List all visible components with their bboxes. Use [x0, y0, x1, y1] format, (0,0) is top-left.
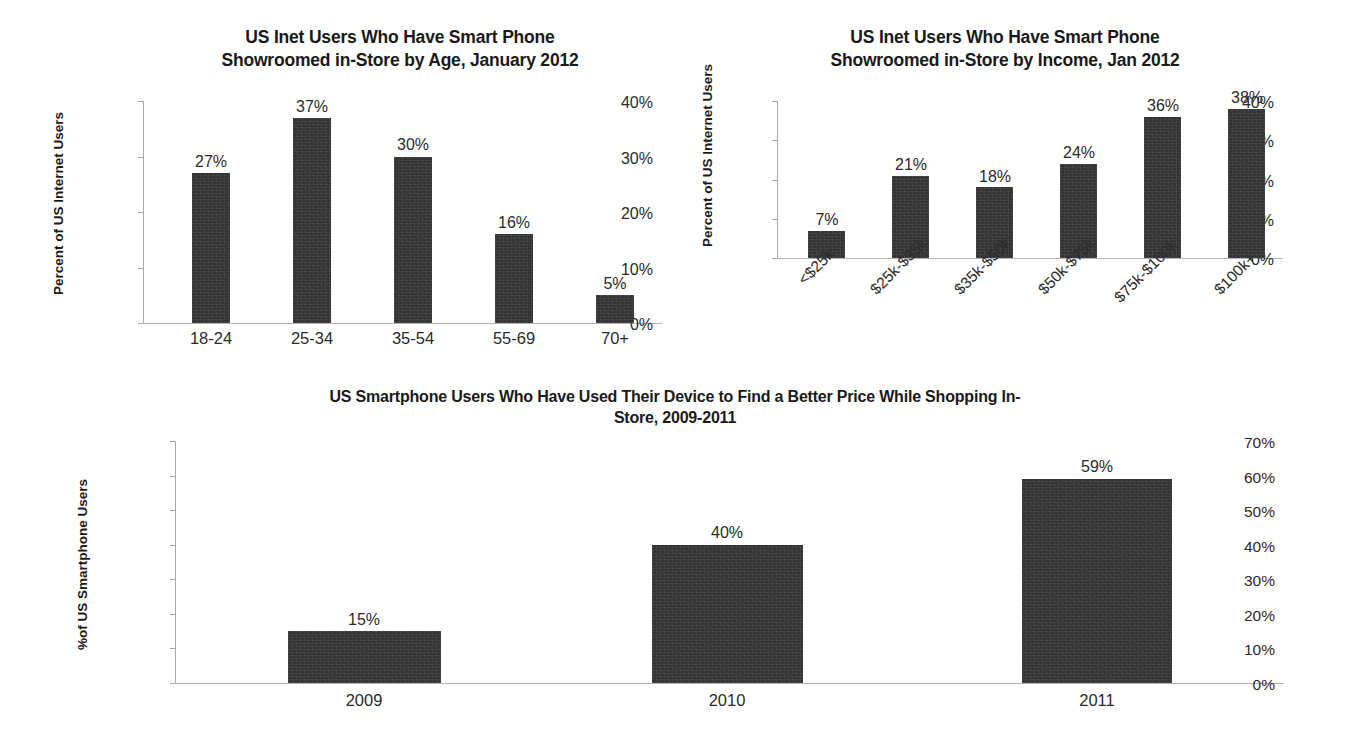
chart-years-ytick-label-50: 50% — [1244, 503, 1275, 521]
chart-years-bar-2009 — [288, 631, 441, 683]
chart-years-ytick-label-20: 20% — [1244, 607, 1275, 625]
chart-income-title-line-2: Showroomed in-Store by Income, Jan 2012 — [755, 49, 1255, 72]
chart-age-bar-55-69 — [495, 234, 533, 323]
chart-age-xtick-70plus: 70+ — [575, 329, 655, 348]
chart-age-ytick-0 — [138, 323, 143, 324]
chart-income-bar-75k-100k — [1144, 117, 1181, 258]
chart-age-xtick-25-34: 25-34 — [272, 329, 352, 348]
chart-income-ytick-0 — [772, 258, 777, 259]
chart-age-value-70plus: 5% — [585, 275, 645, 293]
chart-income-y-axis-title: Percent of US Internet Users — [700, 56, 715, 256]
chart-income-ytick-20 — [772, 180, 777, 181]
chart-age-y-axis-title: Percent of US Internet Users — [51, 104, 66, 304]
chart-age-bar-25-34 — [293, 118, 331, 323]
chart-years-y-axis-title: %of US Smartphone Users — [75, 455, 90, 675]
chart-years-ytick-40 — [170, 545, 175, 546]
chart-years-x-axis-line — [175, 683, 1284, 684]
chart-age-bar-70plus — [596, 295, 634, 323]
chart-age-title-line-1: US Inet Users Who Have Smart Phone — [150, 26, 650, 49]
chart-age-value-55-69: 16% — [484, 214, 544, 232]
chart-income-plot-area: 0% 10% 20% 30% 40% 7% 21% 18% 24% 36% 38… — [777, 101, 1283, 259]
chart-age-plot-area: 0% 10% 20% 30% 40% 27% 37% 30% 16% 5% 18… — [143, 101, 662, 324]
chart-years-ytick-label-60: 60% — [1244, 469, 1275, 487]
chart-years-ytick-label-30: 30% — [1244, 572, 1275, 590]
chart-years-xtick-2011: 2011 — [1062, 691, 1132, 710]
chart-years-ytick-label-70: 70% — [1244, 434, 1275, 452]
chart-years-ytick-20 — [170, 614, 175, 615]
chart-years-bar-2010 — [652, 545, 803, 683]
chart-years-ytick-60 — [170, 476, 175, 477]
chart-income-value-75k-100k: 36% — [1133, 97, 1193, 115]
chart-income-value-35k-50k: 18% — [965, 168, 1025, 186]
chart-years-bar-2011 — [1022, 479, 1172, 683]
chart-income-bar-100k-plus — [1228, 109, 1265, 258]
chart-age-y-axis-line — [143, 101, 144, 324]
chart-age-ytick-40 — [138, 101, 143, 102]
chart-income-value-under-25k: 7% — [797, 211, 857, 229]
chart-years-title-line-2: Store, 2009-2011 — [215, 408, 1135, 429]
chart-years-value-2009: 15% — [334, 611, 394, 629]
chart-income-ytick-10 — [772, 219, 777, 220]
chart-income-y-axis-line — [777, 101, 778, 259]
chart-age-xtick-18-24: 18-24 — [171, 329, 251, 348]
chart-age-ytick-label-30: 30% — [621, 150, 653, 168]
chart-income-value-100k-plus: 38% — [1217, 89, 1277, 107]
chart-age-bar-18-24 — [192, 173, 230, 323]
chart-years-ytick-label-10: 10% — [1244, 641, 1275, 659]
chart-age-bar-chart: US Inet Users Who Have Smart Phone Showr… — [0, 0, 690, 360]
chart-income-title: US Inet Users Who Have Smart Phone Showr… — [755, 26, 1255, 72]
chart-income-bar-chart: US Inet Users Who Have Smart Phone Showr… — [655, 0, 1349, 380]
chart-age-x-axis-line — [143, 323, 662, 324]
chart-age-title-line-2: Showroomed in-Store by Age, January 2012 — [150, 49, 650, 72]
chart-income-x-axis-line — [777, 258, 1283, 259]
chart-years-ytick-10 — [170, 648, 175, 649]
chart-age-ytick-30 — [138, 157, 143, 158]
chart-age-ytick-20 — [138, 212, 143, 213]
chart-years-plot-area: 0% 10% 20% 30% 40% 50% 60% 70% 15% 40% 5… — [175, 441, 1284, 684]
chart-income-ytick-30 — [772, 140, 777, 141]
chart-income-ytick-40 — [772, 101, 777, 102]
chart-age-title: US Inet Users Who Have Smart Phone Showr… — [150, 26, 650, 72]
chart-years-title-line-1: US Smartphone Users Who Have Used Their … — [215, 387, 1135, 408]
chart-years-y-axis-line — [175, 441, 176, 684]
chart-age-value-25-34: 37% — [282, 98, 342, 116]
chart-income-value-25k-35k: 21% — [881, 156, 941, 174]
chart-age-xtick-35-54: 35-54 — [373, 329, 453, 348]
chart-years-ytick-label-0: 0% — [1253, 676, 1275, 694]
chart-age-bar-35-54 — [394, 157, 432, 324]
chart-age-xtick-55-69: 55-69 — [474, 329, 554, 348]
chart-age-value-18-24: 27% — [181, 153, 241, 171]
chart-years-xtick-2010: 2010 — [692, 691, 762, 710]
chart-years-title: US Smartphone Users Who Have Used Their … — [215, 387, 1135, 429]
chart-years-value-2011: 59% — [1067, 458, 1127, 476]
chart-age-ytick-label-40: 40% — [621, 94, 653, 112]
chart-years-ytick-50 — [170, 510, 175, 511]
chart-years-ytick-label-40: 40% — [1244, 538, 1275, 556]
chart-age-value-35-54: 30% — [383, 136, 443, 154]
chart-years-xtick-2009: 2009 — [329, 691, 399, 710]
chart-years-ytick-0 — [170, 683, 175, 684]
chart-years-value-2010: 40% — [697, 524, 757, 542]
chart-income-value-50k-75k: 24% — [1049, 144, 1109, 162]
chart-years-ytick-30 — [170, 579, 175, 580]
chart-age-ytick-10 — [138, 268, 143, 269]
chart-years-bar-chart: US Smartphone Users Who Have Used Their … — [0, 375, 1349, 741]
chart-age-ytick-label-20: 20% — [621, 205, 653, 223]
chart-years-ytick-70 — [170, 441, 175, 442]
chart-income-title-line-1: US Inet Users Who Have Smart Phone — [755, 26, 1255, 49]
